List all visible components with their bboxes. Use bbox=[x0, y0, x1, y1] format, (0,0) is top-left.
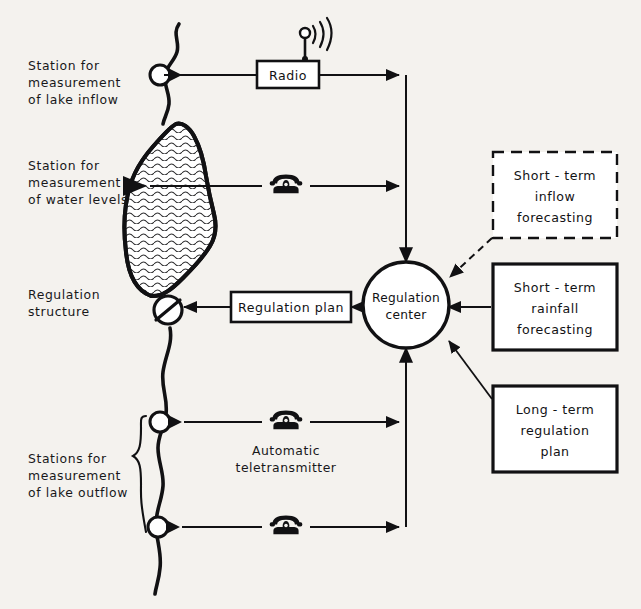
caption-line: Automatic bbox=[252, 443, 320, 458]
regulation-plan-label: Regulation plan bbox=[238, 300, 344, 315]
label-line: of water levels bbox=[28, 192, 128, 207]
diagram-canvas: Station for measurement of lake inflow S… bbox=[0, 0, 641, 609]
box-line: forecasting bbox=[517, 322, 593, 337]
label-line: of lake outflow bbox=[28, 485, 128, 500]
regulation-center-label-line: Regulation bbox=[372, 291, 440, 305]
regulation-center-circle[interactable] bbox=[363, 262, 449, 348]
regulation-center-node[interactable]: Regulation center bbox=[363, 262, 449, 348]
label-line: Regulation bbox=[28, 287, 100, 302]
long-term-regulation-plan-box[interactable]: Long - term regulation plan bbox=[493, 386, 617, 472]
box-line: Short - term bbox=[514, 280, 596, 295]
label-line: measurement bbox=[28, 75, 121, 90]
regulation-plan-node[interactable]: Regulation plan bbox=[231, 292, 351, 322]
box-line: Long - term bbox=[516, 402, 594, 417]
caption-line: teletransmitter bbox=[236, 460, 337, 475]
box-line: inflow bbox=[535, 189, 575, 204]
box-line: Short - term bbox=[514, 168, 596, 183]
box-line: rainfall bbox=[531, 301, 579, 316]
regulation-structure-valve-icon bbox=[154, 296, 182, 324]
radio-label: Radio bbox=[269, 68, 307, 83]
box-line: regulation bbox=[521, 423, 590, 438]
short-term-inflow-forecasting-box[interactable]: Short - term inflow forecasting bbox=[493, 152, 617, 238]
regulation-center-label-line: center bbox=[385, 308, 427, 322]
label-line: Station for bbox=[28, 158, 100, 173]
label-line: measurement bbox=[28, 468, 121, 483]
box-line: forecasting bbox=[517, 210, 593, 225]
label-line: of lake inflow bbox=[28, 92, 118, 107]
label-line: measurement bbox=[28, 175, 121, 190]
label-line: structure bbox=[28, 304, 90, 319]
label-line: Station for bbox=[28, 58, 100, 73]
label-line: Stations for bbox=[28, 451, 107, 466]
box-line: plan bbox=[540, 444, 569, 459]
short-term-rainfall-forecasting-box[interactable]: Short - term rainfall forecasting bbox=[493, 264, 617, 350]
